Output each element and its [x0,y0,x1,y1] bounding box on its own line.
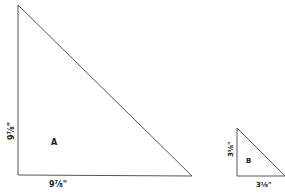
triangle-b-shape [237,128,285,176]
triangle-b-label: B [246,157,251,165]
triangle-a-base-label: 9⅞" [49,180,67,189]
triangle-a: A 9⅞" 9⅞" [7,5,192,189]
triangle-a-shape [18,5,192,176]
triangles-diagram: A 9⅞" 9⅞" B 3⅛" 3⅛" [0,0,285,195]
triangle-b-height-label: 3⅛" [227,141,235,157]
triangle-b-base-label: 3⅛" [256,181,272,189]
triangle-a-height-label: 9⅞" [7,122,16,140]
triangle-b: B 3⅛" 3⅛" [227,128,285,189]
triangle-a-label: A [51,138,58,147]
